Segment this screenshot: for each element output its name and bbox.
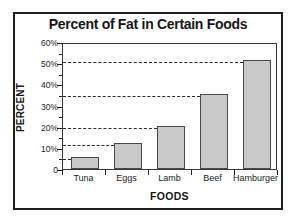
y-tick-label: 10% [41, 144, 58, 154]
x-tick-label: Hamburger [233, 173, 278, 183]
x-axis-tick-labels: TunaEggsLambBeefHamburger [62, 173, 277, 187]
x-tick-label: Eggs [116, 173, 137, 183]
y-axis-tick-labels: 010%20%30%40%50%60% [20, 43, 58, 171]
plot-area [62, 43, 277, 170]
bar-tuna [71, 157, 99, 169]
bar-hamburger [243, 60, 271, 169]
x-tick-label: Lamb [158, 173, 181, 183]
y-tick-label: 40% [41, 80, 58, 90]
y-tick-label: 30% [41, 102, 58, 112]
bar-series [63, 44, 276, 169]
chart-title: Percent of Fat in Certain Foods [13, 16, 283, 32]
x-tick-label: Beef [203, 173, 222, 183]
bar-lamb [157, 126, 185, 169]
chart-figure: Percent of Fat in Certain Foods PERCENT … [0, 0, 296, 221]
y-tick-label: 20% [41, 123, 58, 133]
bar-eggs [114, 143, 142, 169]
x-tick-label: Tuna [73, 173, 93, 183]
y-tick-label: 60% [41, 38, 58, 48]
y-tick-label: 50% [41, 59, 58, 69]
bar-beef [200, 94, 228, 169]
x-axis-title: FOODS [62, 190, 277, 202]
